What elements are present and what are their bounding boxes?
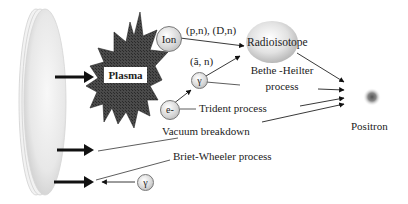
- vacuum-breakdown-label: Vacuum breakdown: [162, 125, 250, 137]
- edge-bethe-positron: [318, 89, 344, 90]
- radioisotope-label: Radioisotope: [247, 36, 308, 48]
- positron-label: Positron: [351, 120, 388, 132]
- edge-brietwheeler-laser: [96, 160, 170, 180]
- edge-ion-radioisotope: [180, 38, 244, 46]
- edge-vacuum-positron: [262, 104, 344, 122]
- edge-trident-positron: [300, 98, 344, 106]
- electron-particle: e-: [160, 100, 180, 120]
- trident-label: Trident process: [199, 102, 267, 114]
- bethe-heitler-label-line2: process: [266, 80, 299, 92]
- gamma-upper-particle: γ: [191, 72, 208, 89]
- plasma-label: Plasma: [104, 67, 147, 83]
- gamma-reaction-label: (ã, n): [190, 55, 213, 67]
- ion-particle: Ion: [156, 26, 182, 52]
- gamma-upper-label: γ: [197, 75, 201, 86]
- gamma-lower-particle: γ: [137, 174, 154, 191]
- bethe-heitler-label-line1: Bethe -Heilter: [251, 64, 314, 76]
- positron-blob: [363, 88, 381, 106]
- gamma-lower-label: γ: [143, 177, 147, 188]
- ion-label: Ion: [162, 33, 177, 45]
- briet-wheeler-label: Briet-Wheeler process: [173, 150, 272, 162]
- electron-label: e-: [166, 104, 174, 115]
- ion-reactions-label: (p,n), (D,n): [186, 24, 236, 36]
- target-disc: [19, 9, 66, 195]
- edge-vacuum-laser: [98, 138, 178, 151]
- edge-gamma-bethe: [206, 82, 240, 85]
